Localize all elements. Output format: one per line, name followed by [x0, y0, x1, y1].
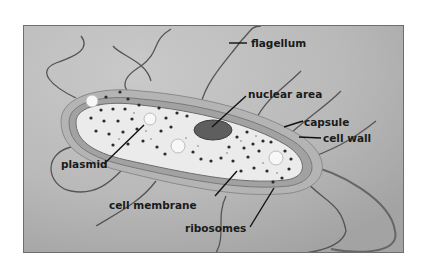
nuclear-area: [194, 120, 232, 140]
bacterium-diagram: flagellum nuclear area capsule cell wall…: [24, 26, 404, 253]
label-ribosomes: ribosomes: [185, 222, 246, 234]
label-cell-membrane: cell membrane: [109, 199, 197, 211]
label-flagellum: flagellum: [251, 37, 306, 49]
label-plasmid: plasmid: [61, 158, 108, 170]
label-cell-wall: cell wall: [323, 132, 371, 144]
label-capsule: capsule: [304, 116, 349, 128]
label-nuclear-area: nuclear area: [248, 88, 322, 100]
diagram-frame: flagellum nuclear area capsule cell wall…: [23, 25, 404, 253]
